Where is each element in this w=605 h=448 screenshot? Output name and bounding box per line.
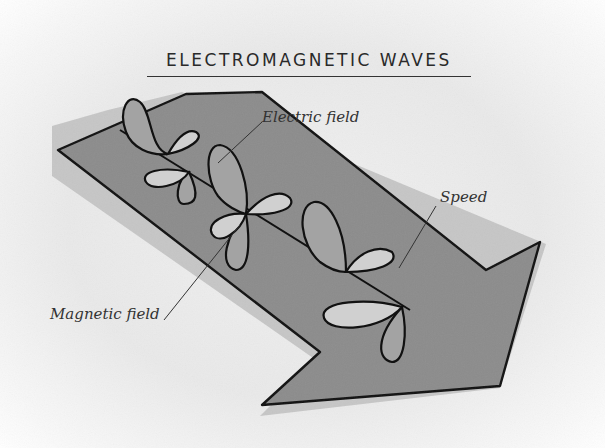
speed-label: Speed <box>440 188 487 206</box>
title-underline <box>147 76 471 77</box>
diagram-title: ELECTROMAGNETIC WAVES <box>147 50 471 70</box>
electric-field-label: Electric field <box>262 108 359 126</box>
diagram-canvas: ELECTROMAGNETIC WAVES Electric field Spe… <box>0 0 605 448</box>
magnetic-field-label: Magnetic field <box>50 305 160 323</box>
